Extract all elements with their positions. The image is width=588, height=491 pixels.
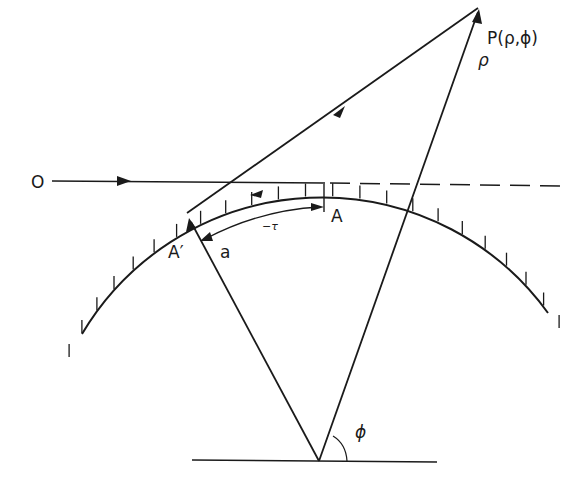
base-line: [192, 460, 437, 462]
dashed-continuation: [330, 183, 562, 186]
label-point-P: P(ρ,ϕ): [487, 28, 538, 48]
label-origin: O: [31, 172, 44, 192]
tau-arrow-right-icon: [311, 203, 324, 211]
radius-a-line: [191, 222, 319, 461]
tau-arrow-left-icon: [200, 232, 213, 241]
label-point-A-prime: A′: [168, 242, 184, 262]
diagram-canvas: O P(ρ,ϕ) ρ A A′ a −τ ϕ: [0, 0, 588, 491]
label-rho: ρ: [478, 50, 489, 70]
circle-arc: [82, 197, 548, 334]
phi-angle-arc: [333, 436, 347, 461]
label-radius-a: a: [220, 242, 230, 262]
label-tau: −τ: [262, 220, 278, 233]
incident-ray-arrow-icon: [117, 176, 131, 186]
label-point-A: A: [331, 206, 343, 226]
tangent-ray: [187, 8, 478, 213]
incident-ray: [52, 181, 325, 183]
rho-line: [319, 12, 478, 461]
label-phi: ϕ: [355, 422, 366, 442]
